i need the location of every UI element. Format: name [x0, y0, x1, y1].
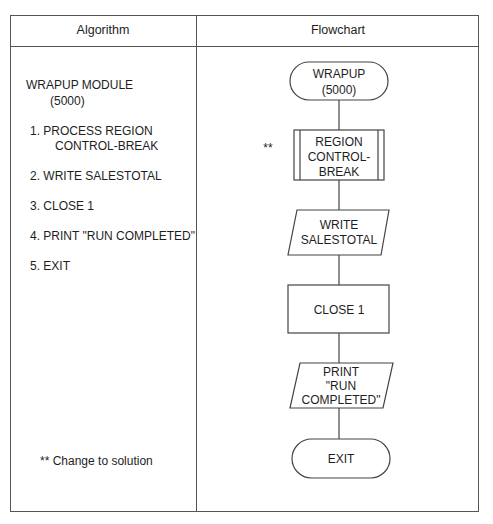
start-label-1: WRAPUP — [313, 67, 366, 81]
io1-label-1: WRITE — [320, 218, 359, 232]
change-marker: ** — [263, 141, 273, 155]
io1-label-2: SALESTOTAL — [301, 233, 378, 247]
process1-label-2: CONTROL- — [308, 150, 371, 164]
process1-label-1: REGION — [315, 135, 362, 149]
io2-label-2: "RUN — [326, 379, 356, 393]
end-label: EXIT — [328, 452, 355, 466]
start-label-2: (5000) — [322, 83, 357, 97]
process1-label-3: BREAK — [319, 165, 360, 179]
io2-label-1: PRINT — [323, 365, 360, 379]
flowchart: WRAPUP (5000) ** REGION CONTROL- BREAK W… — [0, 0, 493, 524]
io2-label-3: COMPLETED" — [302, 393, 381, 407]
process2-label: CLOSE 1 — [314, 303, 365, 317]
